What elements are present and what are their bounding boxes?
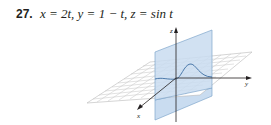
3d-figure: z y x (0, 0, 271, 125)
y-axis-label: y (244, 80, 249, 88)
z-axis-label: z (169, 27, 173, 35)
x-arrow-icon (137, 104, 143, 110)
z-arrow-icon (174, 27, 178, 33)
x-axis-label: x (136, 112, 141, 120)
vertical-plane (155, 30, 212, 100)
